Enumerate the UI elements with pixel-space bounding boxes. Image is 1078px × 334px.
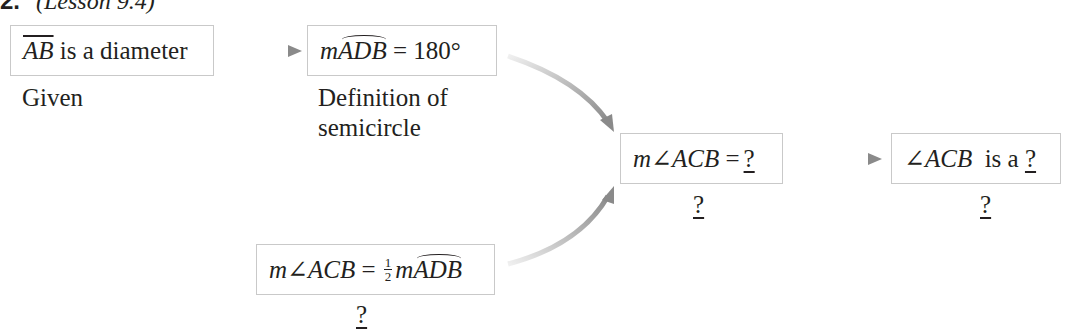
arc-adb: ADB <box>338 37 387 65</box>
arrow-angle-to-type <box>800 153 882 165</box>
angle-acb: m∠ACB <box>269 255 355 284</box>
fraction-one-half: 1 2 <box>384 256 393 283</box>
statement-text: is a <box>972 145 1025 173</box>
answer-blank[interactable]: ? <box>1025 145 1036 173</box>
arrow-given-to-arc <box>222 45 302 57</box>
statement-text: is a diameter <box>54 37 188 65</box>
arrow-arc-to-angle <box>508 56 614 132</box>
arrow-inscribed-to-angle <box>508 186 614 264</box>
statement-angle-type: ∠ACB is a ? <box>891 133 1061 184</box>
arc-adb: ADB <box>413 256 462 284</box>
statement-text: = 180° <box>387 37 461 65</box>
statement-inscribed-angle: m∠ACB = 1 2 m ADB <box>256 244 495 295</box>
statement-arc-measure: m ADB = 180° <box>307 25 497 76</box>
reason-definition-semicircle: Definition of semicircle <box>318 83 448 143</box>
numerator: 1 <box>384 256 393 270</box>
answer-blank[interactable]: ? <box>744 145 755 173</box>
reason-given: Given <box>22 83 83 113</box>
denominator: 2 <box>385 270 392 283</box>
reason-blank[interactable]: ? <box>980 190 991 220</box>
measure-m: m <box>320 37 338 65</box>
angle-acb: m∠ACB <box>633 144 719 173</box>
measure-m: m <box>395 256 413 284</box>
statement-angle-measure: m∠ACB = ? <box>620 133 783 184</box>
equals-sign: = <box>355 256 382 284</box>
reason-blank[interactable]: ? <box>693 190 704 220</box>
statement-given: AB is a diameter <box>10 25 214 76</box>
segment-ab: AB <box>23 37 54 65</box>
reason-line-1: Definition of <box>318 83 448 113</box>
angle-acb: ∠ACB <box>904 144 972 173</box>
reason-line-2: semicircle <box>318 113 448 143</box>
equals-sign: = <box>719 145 739 173</box>
reason-blank[interactable]: ? <box>356 300 367 330</box>
